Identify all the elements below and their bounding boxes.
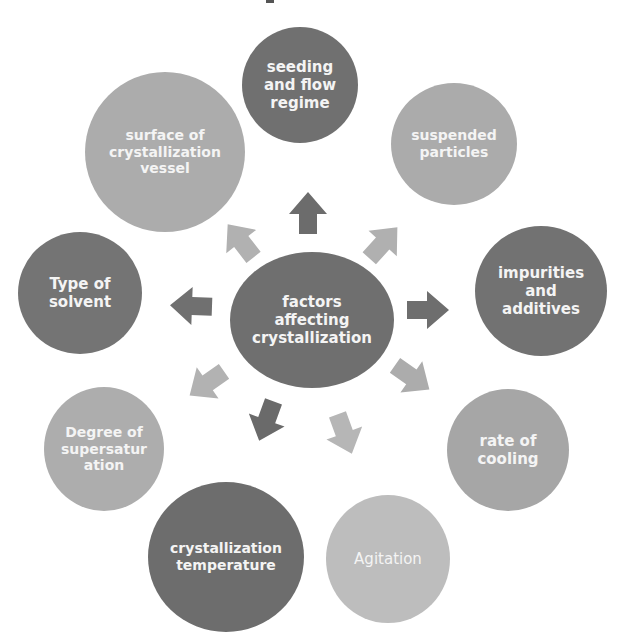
factor-label: seeding and flow regime — [264, 58, 336, 112]
arrow-up-icon — [289, 192, 327, 234]
factor-label: Agitation — [354, 550, 422, 568]
factor-type-of-solvent: Type of solvent — [18, 232, 142, 354]
factor-agitation: Agitation — [326, 495, 450, 623]
factor-label: surface of crystallization vessel — [109, 127, 221, 177]
factor-seeding: seeding and flow regime — [242, 27, 358, 143]
arrow-up-right-icon — [355, 214, 411, 271]
arrow-right-icon — [407, 291, 449, 329]
crystallization-factors-diagram: factors affecting crystallization seedin… — [0, 0, 625, 640]
factor-label: Type of solvent — [49, 275, 111, 311]
factor-label: Degree of supersatur ation — [61, 424, 147, 474]
factor-crystallization-temperature: crystallization temperature — [148, 482, 304, 632]
arrow-left-icon — [169, 286, 212, 325]
factor-label: crystallization temperature — [170, 540, 282, 574]
factor-degree-of-supersaturation: Degree of supersatur ation — [44, 387, 164, 511]
factor-surface-of-vessel: surface of crystallization vessel — [85, 72, 245, 232]
arrow-down-left-icon — [241, 395, 291, 447]
factor-suspended-particles: suspended particles — [391, 83, 517, 205]
factor-label: rate of cooling — [477, 432, 538, 468]
arrow-down-right-icon — [384, 350, 440, 405]
arrow-left-down-icon — [179, 356, 235, 411]
center-node: factors affecting crystallization — [230, 252, 394, 388]
factor-impurities: impurities and additives — [475, 226, 607, 356]
center-label: factors affecting crystallization — [252, 293, 372, 347]
factor-rate-of-cooling: rate of cooling — [447, 389, 569, 511]
arrow-down-agitation-icon — [320, 408, 370, 460]
factor-label: impurities and additives — [498, 264, 584, 318]
factor-label: suspended particles — [411, 127, 497, 161]
arrow-up-left-icon — [213, 213, 269, 269]
